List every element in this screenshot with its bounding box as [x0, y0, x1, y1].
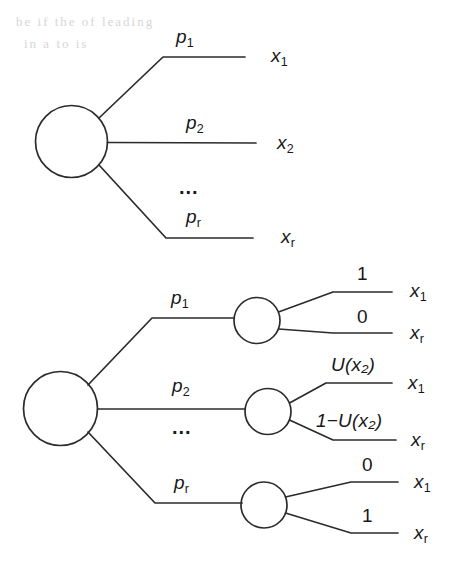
upper-branch-3-probability-label: pr [186, 207, 201, 229]
upper-branch-3-outcome-label: xr [281, 227, 295, 249]
lower-sub-branch-1a-probability-label: 1 [357, 264, 368, 283]
lower-ellipsis: ... [172, 417, 192, 437]
lower-sub-branch-3a-probability-label: 0 [362, 455, 373, 474]
upper-branch-1-probability-label: p1 [176, 27, 194, 49]
lower-sub-node-3 [241, 482, 287, 528]
lower-branch-3-probability-label: pr [174, 473, 189, 495]
lower-sub-branch-2a-probability-label: U(x₂) [331, 355, 375, 374]
lower-branch-2-probability-label: p2 [172, 376, 190, 398]
lower-sub-node-1 [234, 298, 280, 344]
lower-sub-branch-3b-outcome-label: xr [414, 523, 428, 545]
lower-sub-branch-2a-outcome-label: x1 [408, 373, 425, 395]
lower-sub-branch-1a-line [279, 292, 393, 312]
lower-sub-branch-3a-outcome-label: x1 [414, 472, 431, 494]
upper-branch-1-line [99, 57, 245, 118]
upper-ellipsis: ... [179, 177, 199, 197]
upper-branch-2-outcome-label: x2 [277, 133, 294, 155]
lower-sub-branch-3a-line [286, 482, 399, 497]
lower-sub-branch-1b-probability-label: 0 [357, 307, 368, 326]
upper-root-node [36, 106, 108, 178]
upper-branch-2-line [108, 143, 257, 144]
lower-branch-1-line [88, 318, 234, 385]
upper-branch-3-line [99, 165, 253, 238]
lower-sub-branch-2b-probability-label: 1−U(x₂) [316, 411, 382, 430]
lower-root-node [24, 372, 98, 446]
upper-branch-2-probability-label: p2 [186, 113, 204, 135]
lower-sub-branch-1a-outcome-label: x1 [410, 281, 427, 303]
lower-branch-3-line [88, 432, 242, 503]
lower-sub-branch-3b-probability-label: 1 [362, 506, 373, 525]
upper-branch-1-outcome-label: x1 [271, 46, 288, 68]
lower-sub-branch-1b-line [279, 329, 393, 333]
lower-branch-1-probability-label: p1 [171, 288, 189, 310]
lower-sub-branch-1b-outcome-label: xr [410, 323, 424, 345]
tree-lines-svg [0, 0, 450, 566]
lower-sub-branch-3b-line [286, 513, 399, 533]
lower-sub-branch-2a-line [290, 383, 393, 403]
lower-sub-node-2 [245, 389, 291, 435]
decision-tree-figure: be if the of leading in a to is [0, 0, 450, 566]
lower-sub-branch-2b-outcome-label: xr [411, 430, 425, 452]
